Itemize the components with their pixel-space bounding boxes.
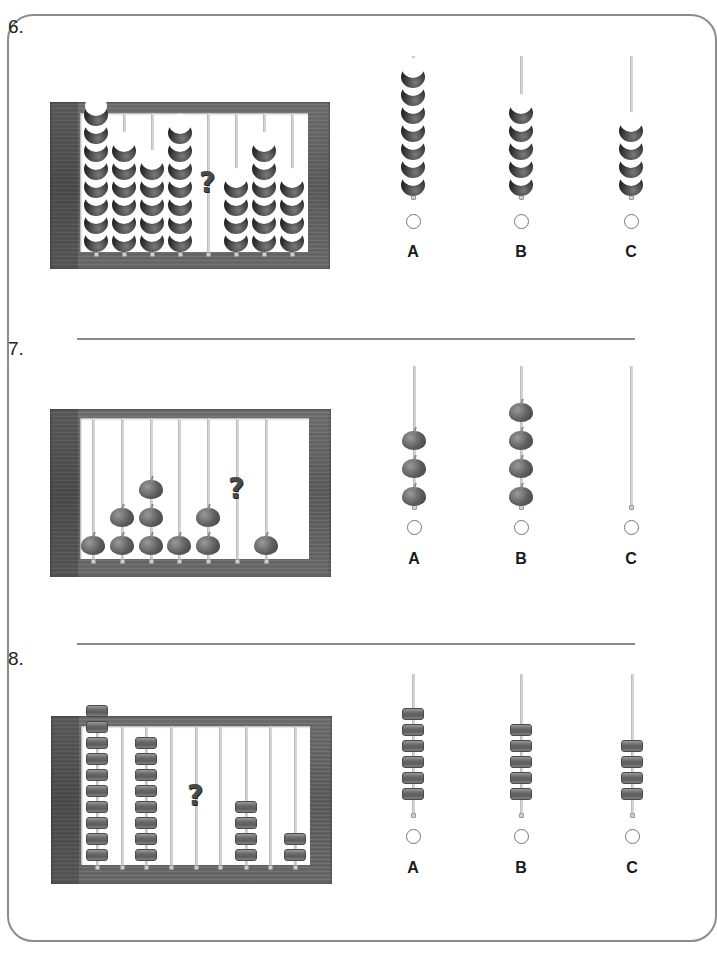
abacus-bead bbox=[254, 533, 278, 555]
abacus-rod bbox=[269, 726, 272, 867]
abacus-bead bbox=[86, 849, 108, 861]
abacus-bead bbox=[284, 833, 306, 845]
rod-peg bbox=[149, 559, 154, 564]
abacus-bead bbox=[167, 533, 191, 555]
option-bead bbox=[402, 740, 424, 752]
section-divider bbox=[77, 338, 635, 340]
abacus-bead bbox=[135, 753, 157, 765]
option-bead bbox=[510, 740, 532, 752]
rod-peg bbox=[206, 559, 211, 564]
option-bead bbox=[402, 724, 424, 736]
rod-peg bbox=[290, 252, 295, 257]
abacus-bead bbox=[84, 104, 108, 122]
abacus-bead bbox=[112, 140, 136, 158]
abacus-bead bbox=[86, 801, 108, 813]
answer-radio-c[interactable] bbox=[624, 520, 639, 535]
option-bead bbox=[402, 756, 424, 768]
abacus-bead bbox=[135, 849, 157, 861]
option-label: C bbox=[616, 243, 646, 261]
rod-peg bbox=[234, 252, 239, 257]
abacus-bead bbox=[235, 849, 257, 861]
rod-peg bbox=[629, 505, 634, 510]
abacus-bead bbox=[86, 705, 108, 717]
option-label: B bbox=[506, 859, 536, 877]
answer-radio-a[interactable] bbox=[407, 520, 422, 535]
rod-peg bbox=[177, 559, 182, 564]
option-label: C bbox=[617, 859, 647, 877]
option-bead bbox=[621, 772, 643, 784]
rod-peg bbox=[268, 865, 273, 870]
answer-radio-b[interactable] bbox=[514, 829, 529, 844]
abacus-bead bbox=[196, 533, 220, 555]
option-bead bbox=[509, 400, 533, 422]
abacus-bead bbox=[86, 721, 108, 733]
abacus-bead bbox=[135, 833, 157, 845]
option-bead bbox=[402, 788, 424, 800]
option-bead bbox=[510, 724, 532, 736]
problem-number: 6. bbox=[8, 16, 24, 38]
abacus-bead bbox=[168, 122, 192, 140]
abacus-frame-panel bbox=[51, 716, 79, 884]
answer-radio-b[interactable] bbox=[514, 214, 529, 229]
abacus-bead bbox=[110, 505, 134, 527]
abacus-bead bbox=[86, 737, 108, 749]
question-mark: ? bbox=[228, 472, 244, 505]
rod-peg bbox=[194, 865, 199, 870]
abacus-bead bbox=[280, 176, 304, 194]
rod-peg bbox=[218, 865, 223, 870]
abacus-bead bbox=[135, 737, 157, 749]
abacus-bead bbox=[235, 801, 257, 813]
abacus-bead bbox=[135, 817, 157, 829]
rod-peg bbox=[411, 813, 416, 818]
answer-radio-c[interactable] bbox=[624, 214, 639, 229]
rod-peg bbox=[519, 813, 524, 818]
abacus-bead bbox=[86, 817, 108, 829]
abacus-bead bbox=[139, 533, 163, 555]
abacus-bead bbox=[86, 785, 108, 797]
rod-peg bbox=[122, 252, 127, 257]
option-bead bbox=[402, 484, 426, 506]
option-label: A bbox=[399, 550, 429, 568]
option-label: B bbox=[506, 550, 536, 568]
abacus-bead bbox=[86, 769, 108, 781]
abacus-rod bbox=[170, 726, 173, 867]
problem-number: 8. bbox=[8, 648, 24, 670]
rod-peg bbox=[150, 252, 155, 257]
rod-peg bbox=[120, 865, 125, 870]
option-label: A bbox=[398, 859, 428, 877]
rod-peg bbox=[293, 865, 298, 870]
abacus-bead bbox=[224, 176, 248, 194]
option-label: A bbox=[398, 243, 428, 261]
rod-peg bbox=[94, 252, 99, 257]
rod-peg bbox=[169, 865, 174, 870]
answer-radio-a[interactable] bbox=[406, 829, 421, 844]
rod-peg bbox=[264, 559, 269, 564]
abacus-rod bbox=[245, 726, 248, 867]
option-bead bbox=[621, 756, 643, 768]
question-mark: ? bbox=[199, 166, 215, 199]
abacus-frame-panel bbox=[50, 102, 78, 269]
answer-radio-c[interactable] bbox=[625, 829, 640, 844]
abacus-bead bbox=[235, 833, 257, 845]
option-bead bbox=[402, 708, 424, 720]
abacus-bead bbox=[81, 533, 105, 555]
problem-number: 7. bbox=[8, 338, 24, 360]
abacus-bead bbox=[86, 833, 108, 845]
abacus-bead bbox=[235, 817, 257, 829]
option-bead bbox=[510, 788, 532, 800]
rod-peg bbox=[91, 559, 96, 564]
rod-peg bbox=[235, 559, 240, 564]
abacus-bead bbox=[140, 158, 164, 176]
abacus-bead bbox=[135, 785, 157, 797]
abacus-frame-panel bbox=[50, 409, 78, 577]
rod-peg bbox=[144, 865, 149, 870]
option-bead bbox=[621, 788, 643, 800]
abacus-bead bbox=[86, 753, 108, 765]
abacus-rod bbox=[219, 726, 222, 867]
abacus-bead bbox=[135, 801, 157, 813]
option-bead bbox=[509, 456, 533, 478]
option-bead bbox=[402, 456, 426, 478]
answer-radio-a[interactable] bbox=[406, 214, 421, 229]
answer-radio-b[interactable] bbox=[514, 520, 529, 535]
option-bead bbox=[401, 66, 425, 84]
